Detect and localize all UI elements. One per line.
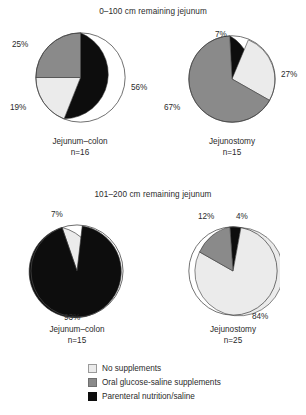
pie-top-left-svg bbox=[33, 30, 128, 125]
caption-n-bottom-right: n=25 bbox=[163, 336, 303, 347]
pie-chart-bottom-right bbox=[186, 224, 280, 318]
pct-label-top-right-parenteral: 7% bbox=[215, 30, 227, 39]
caption-n-top-right: n=15 bbox=[162, 148, 302, 159]
pct-label-bottom-right-oral: 12% bbox=[198, 212, 214, 221]
pie-chart-figure: 0–100 cm remaining jejunum 56% 19% 25% J… bbox=[0, 0, 306, 415]
pie-bottom-left-svg bbox=[28, 222, 126, 320]
black-swatch-icon bbox=[88, 392, 97, 401]
pie-bottom-right-svg bbox=[186, 224, 280, 318]
pct-label-bottom-left-parenteral: 93% bbox=[64, 313, 80, 322]
pct-label-bottom-right-parenteral: 4% bbox=[236, 212, 248, 221]
chart-legend: No supplements Oral glucose-saline suppl… bbox=[88, 361, 221, 403]
pct-label-top-right-oral: 67% bbox=[164, 103, 180, 112]
legend-item-parenteral: Parenteral nutrition/saline bbox=[88, 389, 221, 403]
slice-oral-glucose-saline bbox=[36, 33, 81, 78]
caption-n-bottom-left: n=15 bbox=[7, 336, 147, 347]
caption-group-bottom-left: Jejunum–colon bbox=[49, 325, 104, 334]
legend-label-no-supplements: No supplements bbox=[102, 364, 161, 373]
caption-bottom-right: Jejunostomy n=25 bbox=[163, 325, 303, 346]
pct-label-top-left-oral: 25% bbox=[12, 40, 28, 49]
legend-item-no-supplements: No supplements bbox=[88, 361, 221, 375]
caption-bottom-left: Jejunum–colon n=15 bbox=[7, 325, 147, 346]
pct-label-top-right-no-supplements: 27% bbox=[281, 70, 297, 79]
pie-chart-top-left bbox=[33, 30, 128, 125]
caption-group-top-left: Jejunum–colon bbox=[52, 137, 107, 146]
caption-n-top-left: n=16 bbox=[10, 148, 150, 159]
panel-title-bottom: 101–200 cm remaining jejunum bbox=[0, 190, 306, 199]
panel-title-top: 0–100 cm remaining jejunum bbox=[0, 7, 306, 16]
caption-group-bottom-right: Jejunostomy bbox=[210, 325, 256, 334]
pct-label-top-left-no-supplements: 19% bbox=[10, 103, 26, 112]
caption-top-left: Jejunum–colon n=16 bbox=[10, 137, 150, 158]
medium-gray-swatch-icon bbox=[88, 378, 97, 387]
pct-label-bottom-left-no-supplements: 7% bbox=[51, 210, 63, 219]
legend-label-parenteral: Parenteral nutrition/saline bbox=[102, 392, 195, 401]
caption-top-right: Jejunostomy n=15 bbox=[162, 137, 302, 158]
pct-label-top-left-parenteral: 56% bbox=[131, 83, 147, 92]
pie-top-right-svg bbox=[186, 33, 278, 125]
caption-group-top-right: Jejunostomy bbox=[209, 137, 255, 146]
legend-item-oral-glucose-saline: Oral glucose-saline supplements bbox=[88, 375, 221, 389]
legend-label-oral-glucose-saline: Oral glucose-saline supplements bbox=[102, 378, 221, 387]
light-gray-swatch-icon bbox=[88, 364, 97, 373]
pie-chart-top-right bbox=[186, 33, 278, 125]
pct-label-bottom-right-no-supplements: 84% bbox=[252, 312, 268, 321]
pie-chart-bottom-left bbox=[28, 222, 126, 320]
